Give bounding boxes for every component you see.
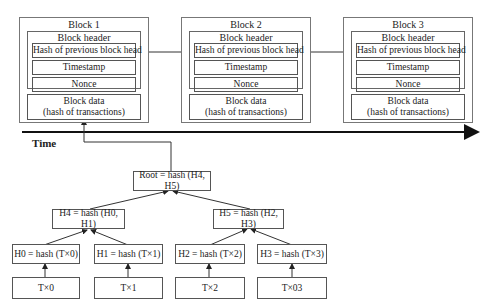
block-header-title: Block header [352,32,464,43]
nonce-field: Nonce [356,77,460,92]
merkle-node-h4: H4 = hash (H0, H1) [52,209,125,229]
merkle-node-h0: H0 = hash (T×0) [12,244,80,264]
nonce-field: Nonce [32,77,136,92]
block-1: Block 1 Block header Hash of previous bl… [19,17,149,123]
block-3-title: Block 3 [344,19,472,30]
merkle-node-h2: H2 = hash (T×2) [175,244,245,264]
block-data-sublabel: (hash of transactions) [43,107,125,118]
block-data-label: Block data [226,96,267,107]
block-header-title: Block header [28,32,140,43]
transaction-leaf-3: T×03 [257,277,327,299]
merkle-root: Root = hash (H4, H5) [133,171,211,191]
block-1-header: Block header Hash of previous block head… [27,31,141,89]
time-label: Time [32,137,56,149]
block-2: Block 2 Block header Hash of previous bl… [181,17,311,123]
block-data-sublabel: (hash of transactions) [367,107,449,118]
nonce-field: Nonce [194,77,298,92]
transaction-leaf-2: T×2 [175,277,245,299]
transaction-leaf-0: T×0 [12,277,80,299]
block-1-title: Block 1 [20,19,148,30]
timestamp-field: Timestamp [32,60,136,75]
merkle-node-h3: H3 = hash (T×3) [257,244,327,264]
prev-hash-field: Hash of previous block head [356,43,460,58]
merkle-node-h1: H1 = hash (T×1) [94,244,163,264]
block-3-header: Block header Hash of previous block head… [351,31,465,89]
block-header-title: Block header [190,32,302,43]
block-2-title: Block 2 [182,19,310,30]
block-data-label: Block data [388,96,429,107]
timestamp-field: Timestamp [194,60,298,75]
block-3-data: Block data (hash of transactions) [351,94,465,120]
timestamp-field: Timestamp [356,60,460,75]
block-data-label: Block data [64,96,105,107]
prev-hash-field: Hash of previous block head [194,43,298,58]
transaction-leaf-1: T×1 [94,277,163,299]
prev-hash-field: Hash of previous block head [32,43,136,58]
block-1-data: Block data (hash of transactions) [27,94,141,120]
block-3: Block 3 Block header Hash of previous bl… [343,17,473,123]
block-data-sublabel: (hash of transactions) [205,107,287,118]
block-2-header: Block header Hash of previous block head… [189,31,303,89]
merkle-node-h5: H5 = hash (H2, H3) [213,209,284,229]
block-2-data: Block data (hash of transactions) [189,94,303,120]
